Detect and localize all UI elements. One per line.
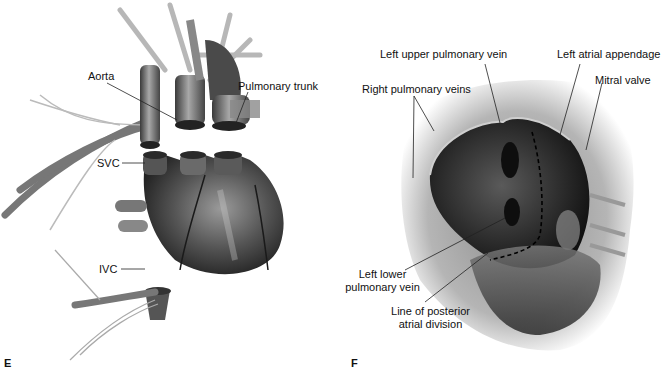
label-right-pulmonary-veins: Right pulmonary veins xyxy=(362,83,471,96)
label-left-lower-pulmonary-vein: Left lower pulmonary vein xyxy=(345,268,420,294)
label-ivc: IVC xyxy=(99,263,117,276)
label-line-of-posterior-atrial-division: Line of posterior atrial division xyxy=(383,305,478,331)
label-mitral-valve: Mitral valve xyxy=(595,74,651,87)
anatomical-figure: Aorta Pulmonary trunk SVC IVC E Left upp… xyxy=(0,0,667,382)
panel-letter-f: F xyxy=(351,357,358,369)
label-line-2: pulmonary vein xyxy=(345,281,420,294)
label-line-1: Left lower xyxy=(345,268,420,281)
label-left-atrial-appendage: Left atrial appendage xyxy=(557,48,660,61)
label-svc: SVC xyxy=(97,157,120,170)
label-line-2: atrial division xyxy=(383,318,478,331)
label-left-upper-pulmonary-vein: Left upper pulmonary vein xyxy=(380,48,507,61)
label-aorta: Aorta xyxy=(88,70,114,83)
panel-e-artwork xyxy=(5,5,284,360)
label-line-1: Line of posterior xyxy=(383,305,478,318)
panel-letter-e: E xyxy=(4,357,11,369)
label-pulmonary-trunk: Pulmonary trunk xyxy=(238,80,318,93)
